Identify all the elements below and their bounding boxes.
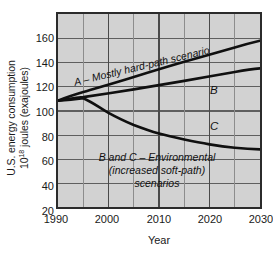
plot-area: A – Mostly hard-path scenario B C B and … bbox=[56, 12, 262, 209]
y-tick-label-100: 100 bbox=[20, 107, 54, 118]
x-tick-label-2010: 2010 bbox=[136, 214, 182, 225]
y-tick-label-80: 80 bbox=[20, 132, 54, 143]
y-tick-label-160: 160 bbox=[20, 33, 54, 44]
x-tick-label-2020: 2020 bbox=[187, 214, 233, 225]
y-axis-title-line1: U.S. energy consumption bbox=[5, 20, 18, 216]
series-line-a bbox=[58, 41, 260, 101]
x-tick-label-1990: 1990 bbox=[33, 214, 79, 225]
y-tick-label-60: 60 bbox=[20, 156, 54, 167]
x-axis-title: Year bbox=[56, 234, 262, 246]
y-tick-label-140: 140 bbox=[20, 58, 54, 69]
energy-consumption-chart: U.S. energy consumption 1018 joules (exa… bbox=[0, 0, 273, 258]
y-tick-label-40: 40 bbox=[20, 181, 54, 192]
x-tick-label-2030: 2030 bbox=[238, 214, 273, 225]
x-tick-label-2000: 2000 bbox=[84, 214, 130, 225]
series-line-b bbox=[58, 68, 260, 100]
y-tick-label-120: 120 bbox=[20, 82, 54, 93]
series-lines bbox=[58, 14, 260, 207]
series-line-c bbox=[58, 98, 260, 149]
